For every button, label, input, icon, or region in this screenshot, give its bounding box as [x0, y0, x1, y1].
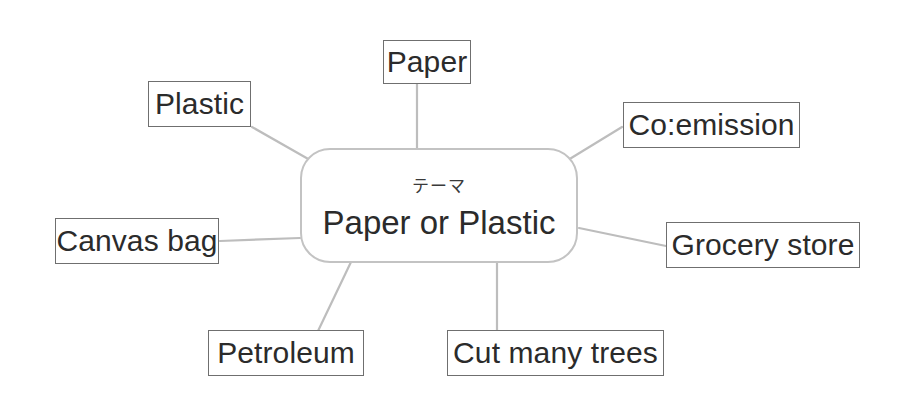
center-node-subtitle: テーマ [412, 172, 466, 197]
branch-node-canvas-bag[interactable]: Canvas bag [55, 218, 219, 264]
connector-petroleum [318, 262, 351, 331]
branch-node-co-emission[interactable]: Co:emission [623, 102, 800, 148]
branch-label-plastic: Plastic [155, 89, 244, 119]
branch-node-plastic[interactable]: Plastic [148, 81, 251, 127]
branch-label-co-emission: Co:emission [628, 110, 794, 140]
connector-co-emission [568, 127, 622, 160]
branch-label-petroleum: Petroleum [217, 338, 355, 368]
connector-canvas-bag [220, 238, 300, 241]
branch-label-cut-many-trees: Cut many trees [453, 338, 658, 368]
branch-node-grocery-store[interactable]: Grocery store [666, 222, 860, 268]
center-node[interactable]: テーマ Paper or Plastic [300, 148, 578, 263]
connector-grocery-store [579, 228, 666, 246]
branch-label-paper: Paper [387, 47, 468, 77]
mind-map-canvas: テーマ Paper or Plastic Paper Plastic Co:em… [0, 0, 900, 412]
branch-node-petroleum[interactable]: Petroleum [208, 330, 364, 376]
connector-plastic [252, 127, 310, 160]
center-node-title: Paper or Plastic [323, 206, 556, 239]
branch-node-paper[interactable]: Paper [383, 40, 471, 84]
branch-node-cut-many-trees[interactable]: Cut many trees [447, 330, 664, 376]
branch-label-canvas-bag: Canvas bag [56, 226, 217, 256]
branch-label-grocery-store: Grocery store [671, 230, 854, 260]
